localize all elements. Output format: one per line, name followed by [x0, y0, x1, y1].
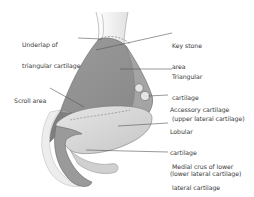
accessory-cartilage-1 — [135, 84, 143, 92]
label-line: Lobular — [170, 128, 241, 135]
label-scroll-area: Scroll area — [14, 83, 46, 118]
nasal-cartilage-diagram: Underlap of triangular cartilage Key sto… — [0, 0, 254, 197]
label-underlap: Underlap of triangular cartilage — [22, 27, 80, 83]
label-line: Accessory cartilage — [170, 106, 229, 113]
label-line: Scroll area — [14, 97, 46, 104]
label-line: Triangular — [172, 73, 245, 80]
label-line: triangular cartilage — [22, 62, 80, 69]
label-line: Medial crus of lower — [172, 163, 233, 170]
label-line: Key stone — [172, 42, 202, 49]
label-medial-crus: Medial crus of lower lateral cartilage — [172, 149, 233, 197]
label-line: lateral cartilage — [172, 184, 233, 191]
label-line: Underlap of — [22, 41, 80, 48]
